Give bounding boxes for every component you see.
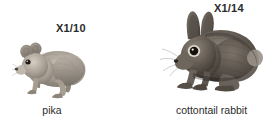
rabbit-eye bbox=[190, 47, 199, 55]
rabbit-cottontail bbox=[247, 50, 263, 67]
pika-ear-near-inner bbox=[23, 47, 31, 56]
rabbit-hind-toes bbox=[215, 86, 235, 92]
rabbit-nose bbox=[174, 59, 179, 63]
rabbit-front-foot-far bbox=[193, 84, 208, 90]
rabbit-eye-highlight bbox=[192, 49, 194, 51]
caption-pika: pika bbox=[0, 104, 104, 116]
pika-hind-foot bbox=[52, 94, 63, 99]
pika-illustration bbox=[12, 38, 94, 100]
pika-nose bbox=[15, 68, 19, 71]
cottontail-rabbit-illustration bbox=[157, 10, 265, 98]
rabbit-front-foot-near bbox=[177, 83, 193, 89]
pika-eye-highlight bbox=[26, 61, 28, 62]
pika-eye bbox=[25, 60, 30, 65]
animal-scale-comparison-figure: X1/10 bbox=[0, 0, 273, 131]
scale-label-pika: X1/10 bbox=[56, 22, 86, 34]
pika-ear-far-inner bbox=[32, 45, 39, 53]
caption-cottontail-rabbit: cottontail rabbit bbox=[150, 104, 273, 116]
pika-front-foot bbox=[27, 90, 37, 94]
